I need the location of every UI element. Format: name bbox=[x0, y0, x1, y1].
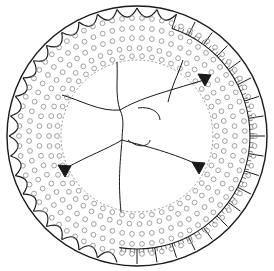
dark-spots bbox=[58, 74, 211, 177]
cross-section-drawing bbox=[0, 0, 274, 271]
inner-dashed-ring bbox=[61, 60, 213, 212]
pore-band bbox=[17, 16, 258, 257]
scalloped-rim bbox=[7, 6, 267, 266]
cross-section-figure bbox=[0, 0, 274, 271]
